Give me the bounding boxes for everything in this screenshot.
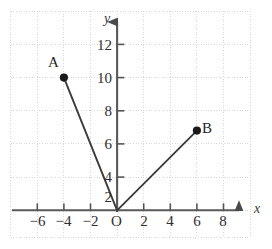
point-b-label: B — [202, 121, 212, 136]
data-point-b — [193, 127, 201, 135]
y-tick-label-8: 8 — [86, 104, 112, 119]
x-tick-label-neg6: −6 — [23, 214, 52, 229]
y-tick-label-2: 2 — [86, 190, 112, 205]
x-tick-label-neg4: −4 — [49, 214, 78, 229]
x-axis-label: x — [254, 202, 260, 216]
x-tick-label-6: 6 — [187, 214, 207, 229]
y-tick-label-10: 10 — [86, 71, 112, 86]
x-tick-label-8: 8 — [213, 214, 233, 229]
y-tick-label-6: 6 — [86, 137, 112, 152]
y-axis-ticks — [117, 44, 124, 177]
data-point-a — [60, 74, 68, 82]
origin-label: O — [111, 214, 122, 229]
point-a-label: A — [48, 55, 59, 70]
coordinate-graph-figure: y x O 12 10 8 6 4 2 −6 −4 −2 2 4 6 8 A B — [0, 0, 272, 249]
plot-canvas — [0, 0, 272, 249]
x-tick-label-4: 4 — [160, 214, 180, 229]
y-axis-label: y — [104, 12, 110, 26]
y-tick-label-4: 4 — [86, 170, 112, 185]
y-tick-label-12: 12 — [86, 38, 112, 53]
segment-origin-to-b — [117, 131, 197, 211]
grid-horizontal-lines — [11, 11, 250, 237]
x-tick-label-2: 2 — [134, 214, 154, 229]
x-tick-label-neg2: −2 — [76, 214, 105, 229]
